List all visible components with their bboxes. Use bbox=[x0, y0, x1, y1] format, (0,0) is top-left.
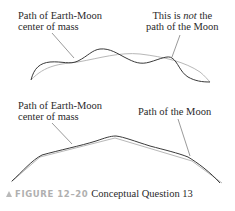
figure-caption: FIGURE 12–20Conceptual Question 13 bbox=[6, 188, 193, 199]
bottom-moon-leader-line bbox=[178, 119, 190, 156]
bottom-moon-path bbox=[12, 136, 220, 183]
top-center-of-mass-path bbox=[31, 54, 210, 82]
triangle-marker-icon bbox=[6, 191, 12, 197]
bottom-com-leader-line bbox=[52, 123, 72, 144]
caption-text: Conceptual Question 13 bbox=[91, 188, 192, 199]
top-com-leader-line bbox=[52, 33, 74, 58]
figure-number: FIGURE 12–20 bbox=[15, 189, 88, 199]
orbit-diagram bbox=[0, 0, 235, 211]
top-not-moon-leader-line bbox=[172, 35, 180, 57]
bottom-center-of-mass-path bbox=[11, 138, 222, 183]
